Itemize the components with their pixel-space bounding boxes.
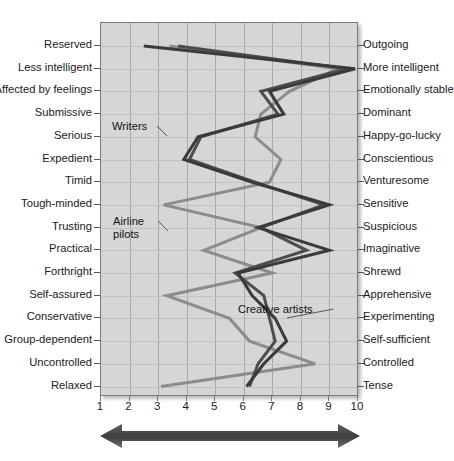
row-tick-left (94, 136, 100, 137)
left-trait-label: Expedient (42, 153, 92, 164)
right-trait-label: Apprehensive (363, 289, 431, 300)
row-tick-left (94, 181, 100, 182)
row-tick-left (94, 204, 100, 205)
annotation-text-line: Airline (113, 215, 144, 228)
right-trait-label: Shrewd (363, 266, 401, 277)
left-trait-label: Submissive (35, 107, 92, 118)
row-tick-left (94, 159, 100, 160)
row-tick-left (94, 68, 100, 69)
left-trait-label: Group-dependent (4, 334, 92, 345)
x-tick-label: 6 (233, 400, 253, 412)
left-trait-label: Relaxed (51, 380, 92, 391)
x-tick-label: 4 (176, 400, 196, 412)
row-tick-left (94, 113, 100, 114)
right-trait-label: Tense (363, 380, 393, 391)
x-tick-label: 2 (119, 400, 139, 412)
x-tick-label: 5 (204, 400, 224, 412)
right-trait-label: Imaginative (363, 243, 420, 254)
left-trait-label: Affected by feelings (0, 84, 92, 95)
annotation-creative-artists: Creative artists (238, 303, 313, 316)
right-trait-label: Outgoing (363, 39, 408, 50)
left-trait-label: Practical (49, 243, 92, 254)
right-trait-label: Controlled (363, 357, 414, 368)
row-tick-left (94, 45, 100, 46)
left-trait-label: Conservative (27, 311, 92, 322)
x-tick-label: 7 (261, 400, 281, 412)
left-trait-label: Reserved (44, 39, 92, 50)
left-trait-label: Timid (65, 175, 92, 186)
scale-arrow-icon (100, 421, 360, 451)
row-tick-left (94, 249, 100, 250)
x-tick-label: 8 (290, 400, 310, 412)
right-trait-label: Emotionally stable (363, 84, 454, 95)
series-lines (101, 23, 357, 395)
left-trait-label: Self-assured (29, 289, 92, 300)
right-trait-label: Conscientious (363, 153, 433, 164)
annotation-airline: Airlinepilots (113, 215, 144, 240)
left-trait-label: Trusting (52, 221, 92, 232)
annotation-writers: Writers (112, 120, 147, 133)
row-tick-left (94, 295, 100, 296)
left-trait-label: Uncontrolled (29, 357, 92, 368)
series-line-writers (144, 46, 355, 387)
plot-area (100, 22, 358, 396)
right-trait-label: Happy-go-lucky (363, 130, 441, 141)
bidirectional-scale-arrow (100, 421, 360, 451)
right-trait-label: Dominant (363, 107, 411, 118)
row-tick-left (94, 363, 100, 364)
left-trait-label: Tough-minded (21, 198, 92, 209)
annotation-text-line: Creative artists (238, 303, 313, 316)
right-trait-label: Sensitive (363, 198, 408, 209)
annotation-text-line: pilots (113, 228, 144, 241)
plot-inner (101, 23, 357, 395)
series-line-creative-artists (178, 46, 347, 387)
row-tick-left (94, 386, 100, 387)
right-trait-label: Suspicious (363, 221, 417, 232)
right-trait-label: Venturesome (363, 175, 429, 186)
row-tick-left (94, 317, 100, 318)
right-trait-label: More intelligent (363, 62, 439, 73)
x-tick-label: 9 (318, 400, 338, 412)
row-tick-left (94, 340, 100, 341)
row-tick-left (94, 272, 100, 273)
left-trait-label: Less intelligent (18, 62, 92, 73)
annotation-text-line: Writers (112, 120, 147, 133)
row-tick-left (94, 227, 100, 228)
x-tick-label: 1 (90, 400, 110, 412)
left-trait-label: Forthright (44, 266, 92, 277)
x-tick-label: 3 (147, 400, 167, 412)
series-line-airline-pilots (161, 46, 338, 387)
row-tick-left (94, 90, 100, 91)
x-tick-label: 10 (347, 400, 367, 412)
right-trait-label: Experimenting (363, 311, 435, 322)
right-trait-label: Self-sufficient (363, 334, 430, 345)
left-trait-label: Serious (54, 130, 92, 141)
